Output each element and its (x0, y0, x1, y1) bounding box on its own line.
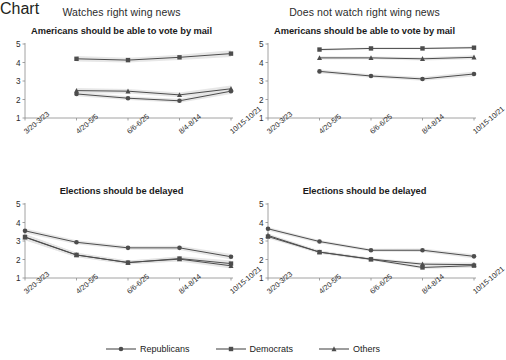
svg-text:1: 1 (259, 274, 264, 283)
svg-text:2: 2 (259, 96, 264, 105)
svg-text:4: 4 (16, 59, 21, 68)
svg-text:1: 1 (16, 274, 21, 283)
svg-text:2: 2 (259, 256, 264, 265)
svg-text:2: 2 (16, 96, 21, 105)
svg-text:5: 5 (259, 200, 264, 209)
panel-title-top-left: Americans should be able to vote by mail (0, 26, 243, 36)
chart-panel-elections-delayed-does-not-watch: 123453/20-3/234/20-5/56/6-6/258/4-8/1410… (251, 200, 478, 288)
legend-item-others[interactable]: Others (319, 344, 380, 354)
legend-marker-square-icon (216, 344, 246, 354)
column-header-right: Does not watch right wing news (243, 6, 486, 18)
chart-panel-vote-by-mail-does-not-watch: 123453/20-3/234/20-5/56/6-6/258/4-8/1410… (251, 40, 478, 128)
column-header-left: Watches right wing news (0, 6, 243, 18)
svg-text:3: 3 (16, 237, 21, 246)
legend-triangle-icon (319, 344, 349, 354)
svg-text:2: 2 (16, 256, 21, 265)
chart-panel-elections-delayed-watches: 123453/20-3/234/20-5/56/6-6/258/4-8/1410… (8, 200, 235, 288)
svg-text:3: 3 (259, 77, 264, 86)
panel-title-bottom-left: Elections should be delayed (0, 186, 243, 196)
panel-title-bottom-right: Elections should be delayed (243, 186, 486, 196)
legend-label: Others (353, 344, 380, 354)
legend-item-republicans[interactable]: Republicans (106, 344, 190, 354)
legend-label: Democrats (250, 344, 294, 354)
svg-text:5: 5 (16, 40, 21, 49)
legend-marker-circle-icon (106, 344, 136, 354)
svg-text:5: 5 (16, 200, 21, 209)
legend-item-democrats[interactable]: Democrats (216, 344, 294, 354)
legend: RepublicansDemocratsOthers (0, 344, 486, 354)
legend-marker-triangle-icon (319, 344, 349, 354)
svg-text:1: 1 (259, 114, 264, 123)
panel-title-top-right: Americans should be able to vote by mail (243, 26, 486, 36)
legend-label: Republicans (140, 344, 190, 354)
chart-panel-vote-by-mail-watches: 123453/20-3/234/20-5/56/6-6/258/4-8/1410… (8, 40, 235, 128)
legend-circle-icon (106, 344, 136, 354)
svg-text:3: 3 (259, 237, 264, 246)
svg-text:5: 5 (259, 40, 264, 49)
svg-text:4: 4 (259, 219, 264, 228)
svg-text:3: 3 (16, 77, 21, 86)
svg-text:4: 4 (16, 219, 21, 228)
svg-text:4: 4 (259, 59, 264, 68)
svg-text:1: 1 (16, 114, 21, 123)
legend-square-icon (216, 344, 246, 354)
